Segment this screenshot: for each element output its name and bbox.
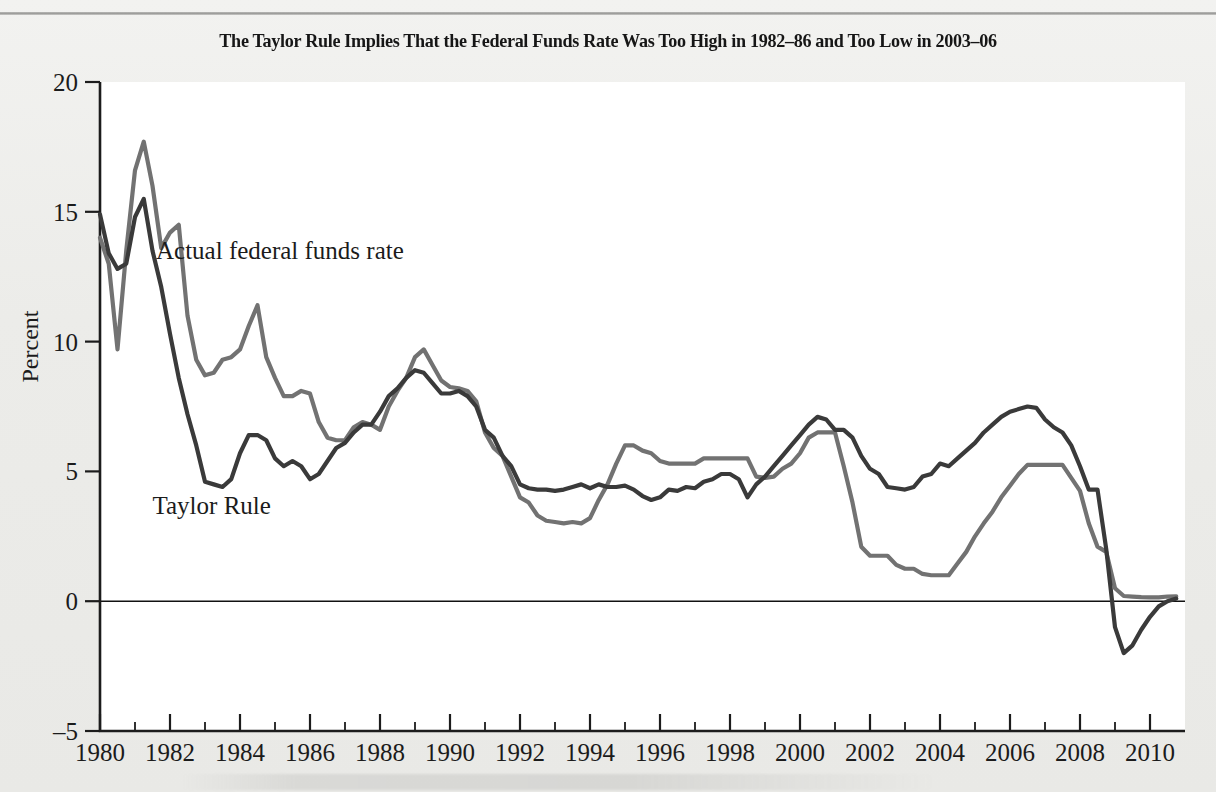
y-tick-label: 15 xyxy=(53,199,78,226)
y-tick-label: 10 xyxy=(53,329,78,356)
x-tick-label: 2010 xyxy=(1125,739,1175,766)
taylor-rule-label: Taylor Rule xyxy=(153,492,271,519)
x-tick-label: 1980 xyxy=(75,739,125,766)
y-axis-title: Percent xyxy=(17,310,43,382)
x-tick-label: 2000 xyxy=(775,739,825,766)
line-chart: 20151050–5 19801982198419861988199019921… xyxy=(0,0,1216,792)
x-tick-label: 1988 xyxy=(355,739,405,766)
actual-federal-funds-rate-label: Actual federal funds rate xyxy=(156,237,404,264)
x-tick-label: 1992 xyxy=(495,739,545,766)
y-axis-ticks xyxy=(85,82,100,731)
x-tick-label: 2004 xyxy=(915,739,966,766)
y-axis-tick-labels: 20151050–5 xyxy=(52,69,78,745)
x-tick-label: 1990 xyxy=(425,739,475,766)
y-tick-label: 5 xyxy=(66,458,79,485)
x-tick-label: 2006 xyxy=(985,739,1035,766)
x-tick-label: 1982 xyxy=(145,739,195,766)
x-tick-label: 2008 xyxy=(1055,739,1105,766)
x-tick-label: 1996 xyxy=(635,739,685,766)
x-tick-label: 1986 xyxy=(285,739,335,766)
page-bottom-artifact xyxy=(180,774,940,790)
y-tick-label: 0 xyxy=(66,588,79,615)
x-tick-label: 1994 xyxy=(565,739,616,766)
chart-figure: 20151050–5 19801982198419861988199019921… xyxy=(0,0,1216,792)
y-tick-label: 20 xyxy=(53,69,78,96)
x-tick-label: 1998 xyxy=(705,739,755,766)
x-axis-tick-labels: 1980198219841986198819901992199419961998… xyxy=(75,739,1175,766)
x-tick-label: 1984 xyxy=(215,739,266,766)
x-tick-label: 2002 xyxy=(845,739,895,766)
